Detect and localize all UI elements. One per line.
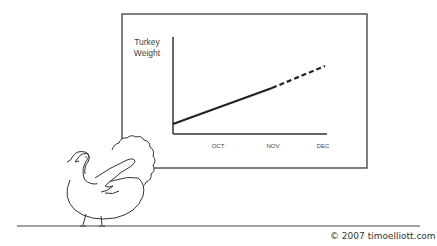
turkey-leg-left-icon [80, 214, 86, 226]
copyright-credit: © 2007 timoelliott.com [330, 231, 436, 241]
y-axis-label-line1: Turkey [134, 37, 160, 47]
turkey-eye-icon [85, 156, 87, 158]
y-axis-label-line2: Weight [134, 48, 161, 58]
x-tick-dec: DEC [317, 143, 330, 149]
x-tick-nov: NOV [266, 143, 279, 149]
cartoon-canvas: Turkey Weight OCT NOV DEC [0, 0, 437, 246]
turkey-illustration [67, 136, 155, 226]
x-tick-oct: OCT [212, 143, 225, 149]
